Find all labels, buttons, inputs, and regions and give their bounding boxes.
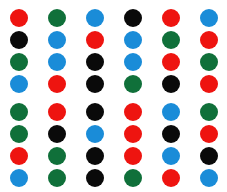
dot-cell-r6-c4 bbox=[124, 125, 142, 143]
dot-row-r3 bbox=[0, 53, 227, 71]
dot-row-r8 bbox=[0, 169, 227, 187]
dot-cell-r6-c2 bbox=[48, 125, 66, 143]
dot-red-icon bbox=[86, 31, 104, 49]
dot-cell-r8-c6 bbox=[200, 169, 218, 187]
dot-blue-icon bbox=[10, 75, 28, 93]
dot-red-icon bbox=[162, 53, 180, 71]
dot-blue-icon bbox=[162, 103, 180, 121]
dot-green-icon bbox=[48, 9, 66, 27]
dot-cell-r6-c6 bbox=[200, 125, 218, 143]
dot-blue-icon bbox=[86, 125, 104, 143]
dot-group-upper bbox=[0, 0, 227, 96]
dot-blue-icon bbox=[124, 31, 142, 49]
dot-cell-r4-c3 bbox=[86, 75, 104, 93]
dot-row-r1 bbox=[0, 9, 227, 27]
dot-row-r5 bbox=[0, 103, 227, 121]
dot-cell-r4-c2 bbox=[48, 75, 66, 93]
dot-cell-r4-c4 bbox=[124, 75, 142, 93]
dot-black-icon bbox=[48, 125, 66, 143]
dot-red-icon bbox=[48, 75, 66, 93]
dot-red-icon bbox=[10, 9, 28, 27]
dot-green-icon bbox=[10, 53, 28, 71]
dot-red-icon bbox=[48, 103, 66, 121]
dot-blue-icon bbox=[48, 31, 66, 49]
dot-cell-r1-c2 bbox=[48, 9, 66, 27]
dot-cell-r5-c4 bbox=[124, 103, 142, 121]
dot-cell-r4-c6 bbox=[200, 75, 218, 93]
dot-cell-r2-c4 bbox=[124, 31, 142, 49]
dot-cell-r1-c5 bbox=[162, 9, 180, 27]
dot-cell-r2-c3 bbox=[86, 31, 104, 49]
dot-green-icon bbox=[162, 31, 180, 49]
dot-green-icon bbox=[10, 125, 28, 143]
dot-cell-r2-c5 bbox=[162, 31, 180, 49]
dot-cell-r7-c6 bbox=[200, 147, 218, 165]
dot-cell-r3-c3 bbox=[86, 53, 104, 71]
dot-red-icon bbox=[200, 31, 218, 49]
dot-cell-r3-c4 bbox=[124, 53, 142, 71]
dot-green-icon bbox=[48, 147, 66, 165]
dot-cell-r1-c1 bbox=[10, 9, 28, 27]
dot-cell-r3-c6 bbox=[200, 53, 218, 71]
dot-row-r6 bbox=[0, 125, 227, 143]
dot-cell-r4-c1 bbox=[10, 75, 28, 93]
dot-red-icon bbox=[162, 9, 180, 27]
dot-cell-r4-c5 bbox=[162, 75, 180, 93]
dot-cell-r5-c2 bbox=[48, 103, 66, 121]
dot-row-r7 bbox=[0, 147, 227, 165]
dot-green-icon bbox=[10, 103, 28, 121]
dot-cell-r1-c3 bbox=[86, 9, 104, 27]
dot-cell-r8-c4 bbox=[124, 169, 142, 187]
dot-cell-r6-c3 bbox=[86, 125, 104, 143]
dot-red-icon bbox=[200, 75, 218, 93]
dot-cell-r5-c6 bbox=[200, 103, 218, 121]
dot-cell-r8-c2 bbox=[48, 169, 66, 187]
dot-cell-r7-c4 bbox=[124, 147, 142, 165]
dot-black-icon bbox=[86, 53, 104, 71]
dot-green-icon bbox=[124, 75, 142, 93]
dot-red-icon bbox=[124, 125, 142, 143]
dot-cell-r2-c1 bbox=[10, 31, 28, 49]
dot-cell-r8-c5 bbox=[162, 169, 180, 187]
dot-red-icon bbox=[124, 103, 142, 121]
dot-grid-canvas bbox=[0, 0, 227, 192]
dot-cell-r8-c1 bbox=[10, 169, 28, 187]
dot-blue-icon bbox=[162, 147, 180, 165]
dot-cell-r5-c3 bbox=[86, 103, 104, 121]
dot-cell-r5-c5 bbox=[162, 103, 180, 121]
dot-black-icon bbox=[86, 169, 104, 187]
dot-black-icon bbox=[162, 125, 180, 143]
dot-cell-r7-c1 bbox=[10, 147, 28, 165]
dot-black-icon bbox=[124, 9, 142, 27]
dot-blue-icon bbox=[124, 53, 142, 71]
dot-black-icon bbox=[200, 147, 218, 165]
dot-cell-r7-c2 bbox=[48, 147, 66, 165]
dot-black-icon bbox=[162, 75, 180, 93]
dot-black-icon bbox=[86, 75, 104, 93]
dot-blue-icon bbox=[86, 9, 104, 27]
dot-blue-icon bbox=[200, 169, 218, 187]
dot-cell-r1-c4 bbox=[124, 9, 142, 27]
dot-black-icon bbox=[10, 31, 28, 49]
dot-cell-r6-c5 bbox=[162, 125, 180, 143]
dot-cell-r5-c1 bbox=[10, 103, 28, 121]
dot-cell-r7-c5 bbox=[162, 147, 180, 165]
dot-cell-r3-c1 bbox=[10, 53, 28, 71]
dot-blue-icon bbox=[48, 53, 66, 71]
dot-red-icon bbox=[10, 147, 28, 165]
dot-red-icon bbox=[200, 125, 218, 143]
dot-black-icon bbox=[86, 147, 104, 165]
dot-green-icon bbox=[48, 169, 66, 187]
dot-cell-r6-c1 bbox=[10, 125, 28, 143]
dot-cell-r3-c5 bbox=[162, 53, 180, 71]
dot-black-icon bbox=[86, 103, 104, 121]
dot-row-r2 bbox=[0, 31, 227, 49]
dot-green-icon bbox=[200, 103, 218, 121]
dot-cell-r8-c3 bbox=[86, 169, 104, 187]
dot-red-icon bbox=[162, 169, 180, 187]
dot-cell-r2-c6 bbox=[200, 31, 218, 49]
dot-cell-r1-c6 bbox=[200, 9, 218, 27]
dot-cell-r2-c2 bbox=[48, 31, 66, 49]
dot-green-icon bbox=[200, 53, 218, 71]
dot-group-lower bbox=[0, 96, 227, 192]
